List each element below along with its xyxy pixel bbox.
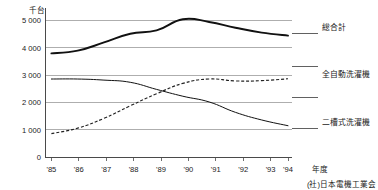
x-tick-label-94: '94 xyxy=(283,165,293,174)
y-axis-unit-label: 千台 xyxy=(29,5,45,15)
legend-label-twin-tub: 二槽式洗濯機 xyxy=(322,117,370,127)
x-tick-label-88: '88 xyxy=(129,165,139,174)
x-tick-labels: '85 '86 '87 '88 '89 '90 '91 '92 '93 '94 xyxy=(46,165,293,174)
y-tick-label-4000: 4 000 xyxy=(22,44,41,53)
series-group xyxy=(51,19,288,134)
y-tick-label-5000: 5 000 xyxy=(22,16,41,25)
legend-label-total: 総合計 xyxy=(322,22,346,32)
x-tick-label-86: '86 xyxy=(74,165,84,174)
series-line-fully-automatic xyxy=(51,79,288,134)
x-ticks xyxy=(51,157,288,161)
x-tick-label-93: '93 xyxy=(266,165,276,174)
line-chart-svg: 千台 5 000 4 000 3 000 2 000 1 000 0 xyxy=(0,0,378,190)
legend-leaders xyxy=(292,34,318,129)
y-tick-label-2000: 2 000 xyxy=(22,98,41,107)
chart-figure: 千台 5 000 4 000 3 000 2 000 1 000 0 xyxy=(0,0,378,190)
y-tick-label-3000: 3 000 xyxy=(22,71,41,80)
x-tick-label-89: '89 xyxy=(156,165,166,174)
legend-label-fully-automatic: 全自動洗濯機 xyxy=(322,69,370,79)
x-tick-label-85: '85 xyxy=(46,165,56,174)
y-tick-label-0: 0 xyxy=(37,153,41,162)
gridlines xyxy=(45,21,292,130)
x-tick-label-90: '90 xyxy=(183,165,193,174)
x-tick-label-91: '91 xyxy=(211,165,221,174)
x-axis-title: 年度 xyxy=(312,164,328,174)
y-tick-label-1000: 1 000 xyxy=(22,126,41,135)
x-tick-label-92: '92 xyxy=(238,165,248,174)
source-note: (社)日本電機工業会 xyxy=(307,179,376,189)
y-tick-labels: 5 000 4 000 3 000 2 000 1 000 0 xyxy=(22,16,41,162)
x-tick-label-87: '87 xyxy=(101,165,111,174)
legend: 総合計 全自動洗濯機 二槽式洗濯機 xyxy=(322,22,370,127)
